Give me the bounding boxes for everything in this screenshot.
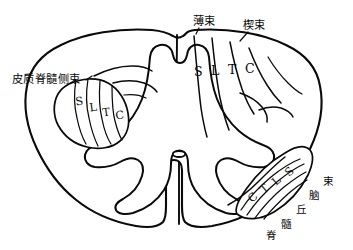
label-spinothalamic-char-5: 束 (323, 175, 334, 187)
label-spinothalamic-char-4: 脑 (309, 189, 320, 201)
posterior-column-letter-t: T (228, 62, 237, 77)
label-lateral-corticospinal: 皮质脊髓侧束 (12, 72, 80, 86)
label-spinothalamic-char-1: 脊 (266, 229, 277, 241)
label-spinothalamic-char-2: 髓 (281, 218, 292, 230)
central-canal (173, 151, 185, 157)
label-spinothalamic-char-3: 丘 (296, 203, 307, 215)
lateral-corticospinal-letter-c: C (115, 108, 125, 122)
label-gracile-fasciculus: 薄束 (193, 14, 216, 28)
spinal-cord-figure: 薄束 楔束 皮质脊髓侧束 S L T C S L T C C T L S 脊 髓… (0, 0, 353, 250)
central-canal-group (173, 151, 185, 157)
posterior-column-letter-s: S (194, 64, 203, 79)
posterior-column-letter-l: L (211, 63, 220, 78)
spinal-cord-diagram: 薄束 楔束 皮质脊髓侧束 S L T C S L T C C T L S 脊 髓… (0, 0, 353, 250)
posterior-column-letter-c: C (245, 61, 255, 76)
label-lateral-corticospinal-group: 皮质脊髓侧束 (12, 72, 92, 86)
label-cuneate-fasciculus: 楔束 (243, 19, 266, 32)
